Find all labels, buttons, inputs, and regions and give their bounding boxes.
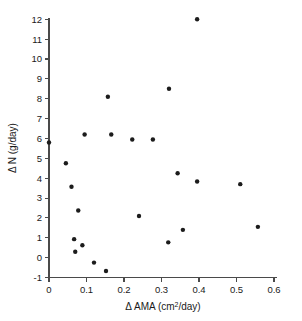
- y-tick-label: 0: [37, 252, 42, 263]
- data-point: [181, 228, 185, 232]
- y-axis-title-delta: Δ: [7, 166, 18, 173]
- data-point: [238, 182, 242, 186]
- svg-text:ΔAMA (cm2/day): ΔAMA (cm2/day): [125, 301, 200, 313]
- data-point: [76, 208, 80, 212]
- x-tick-label: 0.1: [80, 284, 93, 295]
- y-axis-ticks: -10123456789101112: [31, 14, 49, 283]
- axes-group: [49, 18, 277, 278]
- x-tick-label: 0.4: [192, 284, 205, 295]
- x-tick-label: 0.3: [155, 284, 168, 295]
- y-tick-label: 8: [37, 93, 42, 104]
- x-tick-label: 0.6: [267, 284, 280, 295]
- y-tick-label: 3: [37, 192, 42, 203]
- data-point: [47, 140, 51, 144]
- x-axis-title-tail: /day): [178, 301, 200, 312]
- y-tick-label: -1: [34, 272, 42, 283]
- data-point: [256, 225, 260, 229]
- scatter-plot-figure: -10123456789101112 00.10.20.30.40.50.6 Δ…: [0, 0, 302, 321]
- data-point: [82, 132, 86, 136]
- data-point: [80, 243, 84, 247]
- data-points-group: [47, 17, 260, 273]
- data-point: [137, 214, 141, 218]
- data-point: [195, 17, 199, 21]
- x-tick-label: 0.2: [117, 284, 130, 295]
- data-point: [104, 269, 108, 273]
- y-axis-title-main: N (g/day): [7, 123, 18, 164]
- data-point: [167, 87, 171, 91]
- data-point: [73, 249, 77, 253]
- data-point: [195, 179, 199, 183]
- y-tick-label: 6: [37, 133, 42, 144]
- plot-canvas: -10123456789101112 00.10.20.30.40.50.6 Δ…: [0, 0, 302, 321]
- y-tick-label: 5: [37, 153, 42, 164]
- y-tick-label: 12: [31, 14, 42, 25]
- y-tick-label: 4: [37, 173, 42, 184]
- x-tick-label: 0.5: [230, 284, 243, 295]
- x-axis-ticks: 00.10.20.30.40.50.6: [46, 278, 280, 295]
- x-axis-title-main: AMA (cm: [134, 301, 175, 312]
- y-axis-title: ΔN (g/day): [7, 123, 18, 173]
- svg-text:ΔN (g/day): ΔN (g/day): [7, 123, 18, 173]
- data-point: [106, 95, 110, 99]
- y-tick-label: 11: [32, 34, 42, 45]
- data-point: [130, 137, 134, 141]
- data-point: [69, 185, 73, 189]
- data-point: [151, 137, 155, 141]
- data-point: [109, 132, 113, 136]
- x-tick-label: 0: [46, 284, 51, 295]
- y-tick-label: 9: [37, 73, 42, 84]
- data-point: [64, 161, 68, 165]
- data-point: [166, 240, 170, 244]
- data-point: [175, 171, 179, 175]
- x-axis-title-delta: Δ: [125, 301, 132, 312]
- x-axis-title: ΔAMA (cm2/day): [125, 301, 200, 313]
- data-point: [92, 260, 96, 264]
- y-tick-label: 2: [37, 212, 42, 223]
- y-tick-label: 1: [37, 232, 42, 243]
- y-tick-label: 10: [31, 53, 42, 64]
- y-tick-label: 7: [37, 113, 42, 124]
- data-point: [72, 237, 76, 241]
